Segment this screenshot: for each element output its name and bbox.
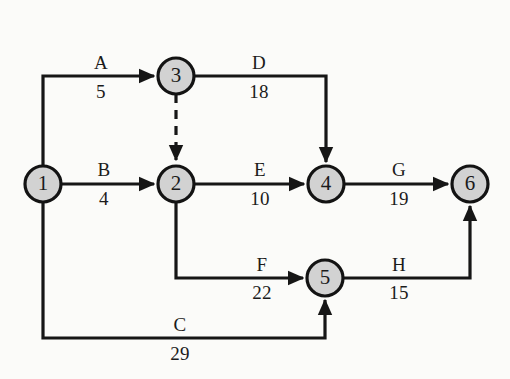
node-4[interactable]: 4: [308, 166, 344, 202]
node-4-label: 4: [321, 171, 332, 195]
node-1[interactable]: 1: [25, 166, 61, 202]
edge-label-G: G: [392, 159, 406, 181]
edge-label-B: B: [98, 159, 111, 181]
edge-label-C: C: [174, 314, 187, 336]
edge-duration-C: 29: [170, 343, 190, 365]
edge-label-D: D: [252, 52, 266, 74]
node-5[interactable]: 5: [307, 260, 343, 296]
edge-label-A: A: [94, 52, 108, 74]
node-2[interactable]: 2: [158, 166, 194, 202]
node-1-label: 1: [38, 171, 49, 195]
edge-duration-G: 19: [389, 188, 409, 210]
edge-label-E: E: [254, 159, 266, 181]
node-3-label: 3: [171, 63, 182, 87]
node-6-label: 6: [465, 171, 476, 195]
edge-label-H: H: [392, 254, 406, 276]
edge-duration-E: 10: [250, 188, 270, 210]
edge-duration-A: 5: [96, 81, 106, 103]
node-2-label: 2: [171, 171, 182, 195]
node-3[interactable]: 3: [158, 58, 194, 94]
edge-duration-B: 4: [99, 188, 109, 210]
node-6[interactable]: 6: [452, 166, 488, 202]
edge-duration-H: 15: [389, 282, 409, 304]
edge-path-F: [176, 202, 303, 278]
edge-duration-D: 18: [249, 81, 269, 103]
edge-label-F: F: [257, 254, 268, 276]
network-diagram-canvas: 1 2 3 4 5 6 A 5 B 4 C 29 D 18 E 10: [0, 0, 510, 379]
node-5-label: 5: [320, 265, 331, 289]
edge-duration-F: 22: [252, 282, 272, 304]
edge-path-H: [343, 206, 470, 278]
